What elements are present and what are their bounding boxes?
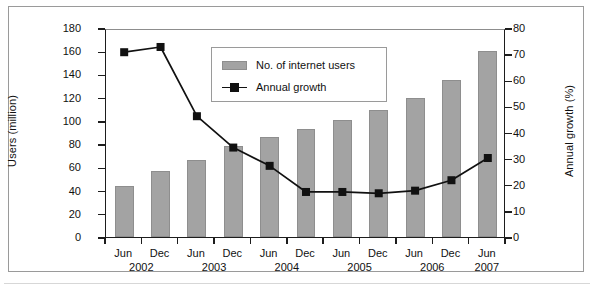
y-left-tick-mark: [98, 168, 105, 169]
y-left-tick-label: 40: [41, 185, 81, 197]
y-axis-left-title: Users (million): [6, 95, 18, 167]
growth-marker: [375, 189, 383, 197]
growth-marker: [338, 188, 346, 196]
y-right-tick-mark: [505, 107, 512, 108]
growth-marker: [193, 112, 201, 120]
growth-marker: [484, 154, 492, 162]
y-left-tick-mark: [98, 214, 105, 215]
y-left-tick-mark: [98, 191, 105, 192]
legend-entry-internet-users: No. of internet users: [222, 57, 355, 73]
y-left-tick-label: 80: [41, 138, 81, 150]
y-left-tick-label: 20: [41, 208, 81, 220]
growth-marker: [120, 48, 128, 56]
y-right-tick-label: 40: [513, 127, 543, 139]
y-left-tick-label: 180: [41, 22, 81, 34]
y-right-tick-label: 50: [513, 100, 543, 112]
chart-figure-frame: Users (million) Annual growth (%) 020406…: [8, 6, 584, 272]
bar-swatch-icon: [222, 61, 247, 70]
growth-marker: [302, 188, 310, 196]
y-left-tick-label: 60: [41, 161, 81, 173]
y-left-tick-label: 160: [41, 45, 81, 57]
legend-label-internet-users: No. of internet users: [256, 59, 355, 71]
y-left-tick-mark: [98, 144, 105, 145]
chart-legend: No. of internet users Annual growth: [211, 47, 387, 102]
y-axis-right-title: Annual growth (%): [563, 85, 575, 177]
y-right-tick-label: 0: [513, 231, 543, 243]
y-right-tick-label: 80: [513, 22, 543, 34]
y-right-tick-label: 70: [513, 48, 543, 60]
y-right-tick-mark: [505, 54, 512, 55]
y-right-tick-label: 10: [513, 205, 543, 217]
y-right-tick-mark: [505, 237, 512, 238]
y-left-tick-label: 0: [41, 231, 81, 243]
y-left-tick-mark: [98, 121, 105, 122]
y-right-tick-mark: [505, 211, 512, 212]
y-left-tick-mark: [98, 98, 105, 99]
y-left-tick-mark: [98, 52, 105, 53]
growth-marker: [157, 43, 165, 51]
legend-entry-annual-growth: Annual growth: [222, 79, 326, 95]
y-right-tick-label: 30: [513, 153, 543, 165]
x-year-label: 2002: [101, 261, 181, 273]
scan-artifact-line: [4, 283, 590, 284]
y-left-tick-label: 140: [41, 68, 81, 80]
line-marker-swatch-icon: [222, 82, 247, 93]
x-year-label: 2004: [247, 261, 327, 273]
y-left-tick-label: 120: [41, 92, 81, 104]
y-left-tick-mark: [98, 75, 105, 76]
x-year-label: 2005: [320, 261, 400, 273]
y-right-tick-mark: [505, 159, 512, 160]
x-year-label: 2003: [174, 261, 254, 273]
x-category-label: Jun: [450, 247, 523, 259]
y-right-tick-mark: [505, 185, 512, 186]
x-year-label: 2007: [447, 261, 527, 273]
growth-marker: [411, 187, 419, 195]
growth-marker: [447, 176, 455, 184]
y-right-tick-mark: [505, 28, 512, 29]
y-left-tick-mark: [98, 28, 105, 29]
growth-marker: [229, 144, 237, 152]
y-right-tick-mark: [505, 81, 512, 82]
growth-marker: [266, 162, 274, 170]
legend-label-annual-growth: Annual growth: [256, 81, 326, 93]
y-right-tick-label: 60: [513, 74, 543, 86]
y-left-tick-label: 100: [41, 115, 81, 127]
y-right-tick-label: 20: [513, 179, 543, 191]
y-right-tick-mark: [505, 133, 512, 134]
